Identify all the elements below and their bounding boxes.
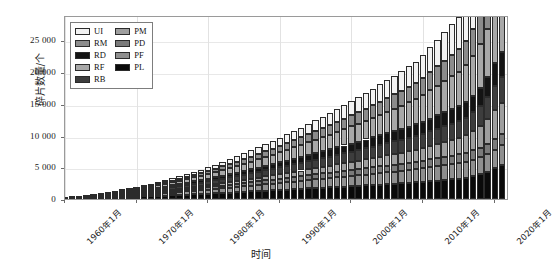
bar-segment-ui [83, 195, 89, 197]
bar-segment-pd [377, 166, 383, 173]
bar-segment-ui [327, 113, 333, 125]
bar-segment-rb [298, 163, 304, 171]
bar-segment-rm [176, 179, 182, 181]
bar-segment-rm [248, 157, 254, 162]
bar-segment-rm [320, 128, 326, 137]
bar-segment-rm [277, 146, 283, 152]
bar-segment-pf [270, 184, 276, 191]
bar-segment-pm [191, 187, 197, 189]
bar-segment-rf [148, 187, 154, 189]
bar-segment-pd [363, 168, 369, 174]
bar-stack [312, 120, 318, 199]
bar-segment-pf [305, 180, 311, 188]
bar-segment-pm [355, 161, 361, 170]
bar-segment-rm [449, 55, 455, 76]
bar-segment-rm [205, 171, 211, 174]
bar-segment-rb [406, 138, 412, 151]
bar-segment-pm [277, 174, 283, 179]
bar-segment-rb [370, 147, 376, 158]
bar-segment-pm [312, 168, 318, 174]
bar-segment-ui [234, 156, 240, 161]
bar-segment-rd [456, 106, 462, 121]
bar-segment-pd [262, 180, 268, 184]
bar-segment-rf [184, 179, 190, 183]
bar-segment-rf [255, 159, 261, 167]
bar-segment-pd [341, 171, 347, 177]
bar-segment-rf [484, 29, 490, 77]
bar-stack [112, 192, 118, 199]
bar-segment-rm [434, 66, 440, 85]
bar-stack [270, 141, 276, 199]
bar-segment-rd [234, 173, 240, 177]
bar-segment-pl [255, 191, 261, 199]
bar-segment-rd [184, 183, 190, 185]
bar-segment-pm [463, 135, 469, 153]
bar-segment-pl [176, 195, 182, 199]
y-axis-tick-mark [61, 105, 64, 106]
bar-segment-ui [391, 76, 397, 95]
bar-segment-rd [320, 151, 326, 158]
bar-segment-rd [484, 77, 490, 97]
bar-segment-pl [191, 194, 197, 199]
x-axis-tick-mark [207, 200, 208, 203]
bar-segment-rf [234, 166, 240, 173]
bar-segment-rm [441, 61, 447, 81]
bar-segment-pm [499, 103, 505, 134]
bar-segment-rm [355, 112, 361, 123]
bar-segment-rb [477, 106, 483, 126]
bar-segment-ui [162, 180, 168, 182]
bar-segment-pd [499, 134, 505, 146]
bar-segment-pm [377, 157, 383, 167]
bar-segment-pl [363, 185, 369, 199]
bar-segment-rd [305, 155, 311, 161]
bar-segment-rb [277, 167, 283, 174]
bar-stack [227, 159, 233, 199]
bar-segment-rm [270, 149, 276, 155]
bar-segment-pd [248, 182, 254, 185]
bar-segment-pd [334, 172, 340, 178]
legend-label: PD [134, 39, 145, 48]
bar-segment-ui [112, 191, 118, 193]
bar-segment-pm [270, 175, 276, 179]
bar-segment-rd [499, 52, 505, 77]
bar-stack [277, 138, 283, 199]
bar-segment-rm [312, 131, 318, 139]
bar-segment-rd [241, 171, 247, 175]
bar-segment-pd [477, 148, 483, 158]
bar-stack [406, 66, 412, 199]
bar-segment-rb [441, 126, 447, 142]
bar-segment-rb [413, 136, 419, 150]
bar-segment-rm [262, 151, 268, 157]
bar-segment-pm [219, 183, 225, 186]
bar-segment-rf [141, 188, 147, 190]
bar-segment-rm [212, 169, 218, 172]
legend-label: RM [94, 39, 107, 48]
bar-segment-pm [255, 178, 261, 182]
bar-segment-pd [441, 157, 447, 165]
bar-segment-rd [391, 131, 397, 141]
bar-segment-rd [334, 147, 340, 155]
bar-segment-pm [477, 126, 483, 148]
bar-segment-rf [413, 99, 419, 124]
bar-segment-ui [184, 174, 190, 177]
bar-segment-ui [270, 141, 276, 149]
bar-segment-rb [391, 141, 397, 154]
bar-segment-pl [277, 190, 283, 199]
bar-segment-pd [463, 153, 469, 162]
bar-segment-pl [355, 186, 361, 199]
bar-segment-pd [305, 175, 311, 180]
bar-segment-pd [205, 187, 211, 189]
bar-stack [83, 197, 89, 199]
bar-segment-pm [320, 167, 326, 174]
bar-segment-rb [312, 160, 318, 168]
bar-segment-ui [312, 120, 318, 131]
bar-segment-pl [348, 186, 354, 199]
bar-segment-ui [198, 170, 204, 173]
bar-stack [126, 189, 132, 199]
bar-segment-pl [441, 180, 447, 199]
bar-segment-pm [484, 119, 490, 144]
bar-segment-rb [219, 179, 225, 183]
bar-segment-ui [241, 153, 247, 159]
bar-segment-pf [492, 150, 498, 168]
bar-segment-rb [334, 155, 340, 164]
